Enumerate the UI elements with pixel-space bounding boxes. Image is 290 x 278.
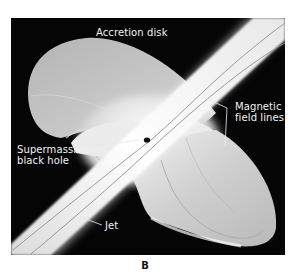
accretion-disk-label: Accretion disk (96, 27, 168, 38)
black-hole-marker (144, 137, 150, 142)
illustration-panel: Accretion disk Magnetic field lines Supe… (11, 18, 285, 255)
black-hole-label-line2: black hole (17, 155, 88, 166)
jet-label: Jet (105, 220, 118, 231)
magnetic-field-lines-label-line1: Magnetic (235, 101, 284, 112)
jet-label-text: Jet (105, 220, 118, 231)
magnetic-field-lines-label: Magnetic field lines (235, 101, 284, 123)
figure-panel-letter: B (0, 260, 290, 271)
accretion-disk-label-text: Accretion disk (96, 27, 168, 38)
accretion-disk-jet-illustration (11, 18, 285, 255)
black-hole-label-line1: Supermassive (17, 144, 88, 155)
magnetic-field-lines-label-line2: field lines (235, 112, 284, 123)
black-hole-label: Supermassive black hole (17, 144, 88, 166)
